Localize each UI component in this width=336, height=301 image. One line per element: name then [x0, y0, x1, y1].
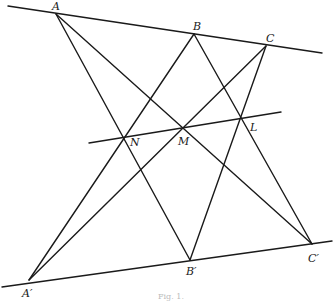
- label-c: C: [266, 32, 275, 45]
- label-n: N: [129, 136, 140, 149]
- line-b-a2: [29, 34, 194, 280]
- line-b-c2: [194, 34, 312, 244]
- line-a-b2: [56, 14, 190, 260]
- label-l: L: [249, 121, 257, 134]
- line-c-a2: [29, 46, 266, 280]
- figure-caption: Fig. 1.: [158, 292, 184, 301]
- label-b-prime: B′: [185, 265, 197, 278]
- label-b: B: [192, 20, 201, 33]
- line-abc: [8, 6, 322, 53]
- pappus-diagram: A B C N M L A′ B′ C′ Fig. 1.: [0, 0, 336, 301]
- line-a2b2c2: [2, 241, 332, 287]
- label-a: A: [51, 0, 60, 13]
- label-a-prime: A′: [21, 287, 33, 300]
- label-m: M: [177, 135, 190, 148]
- line-c-b2: [190, 46, 266, 260]
- label-c-prime: C′: [308, 252, 319, 265]
